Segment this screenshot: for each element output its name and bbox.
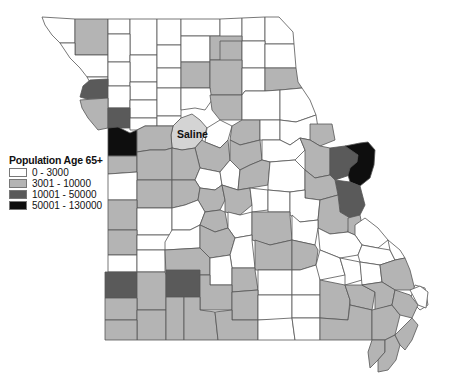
county bbox=[268, 160, 305, 192]
county bbox=[137, 272, 166, 310]
county bbox=[242, 17, 265, 41]
county bbox=[108, 156, 137, 174]
county bbox=[137, 250, 165, 272]
county bbox=[232, 290, 258, 320]
county bbox=[130, 55, 157, 82]
county bbox=[220, 41, 242, 62]
county bbox=[108, 200, 137, 230]
county bbox=[360, 262, 382, 285]
county bbox=[265, 68, 302, 91]
county bbox=[181, 19, 220, 36]
legend: Population Age 65+ 0 - 3000 3001 - 10000… bbox=[9, 154, 103, 211]
county bbox=[262, 138, 305, 162]
county bbox=[105, 272, 137, 298]
county bbox=[292, 295, 320, 318]
county bbox=[258, 270, 292, 295]
county bbox=[268, 190, 290, 212]
county bbox=[80, 79, 108, 99]
county bbox=[157, 45, 181, 68]
county bbox=[222, 185, 252, 215]
county bbox=[157, 88, 181, 116]
county bbox=[108, 86, 130, 108]
legend-swatch-2 bbox=[9, 190, 27, 199]
county bbox=[210, 95, 242, 120]
county bbox=[42, 17, 75, 43]
county bbox=[258, 318, 295, 340]
legend-label: 10001 - 50000 bbox=[32, 189, 97, 200]
county bbox=[242, 90, 280, 120]
county bbox=[265, 17, 294, 44]
county bbox=[232, 268, 258, 292]
county bbox=[260, 120, 280, 140]
county bbox=[137, 310, 166, 340]
county bbox=[265, 44, 296, 68]
county bbox=[105, 320, 137, 340]
county bbox=[250, 188, 268, 212]
county bbox=[108, 255, 137, 272]
county bbox=[108, 172, 137, 200]
county bbox=[210, 255, 232, 285]
county bbox=[108, 230, 137, 255]
county bbox=[172, 148, 200, 180]
county bbox=[137, 126, 173, 152]
legend-swatch-0 bbox=[9, 168, 27, 177]
legend-label: 50001 - 130000 bbox=[32, 200, 102, 211]
county bbox=[292, 318, 320, 340]
county bbox=[108, 108, 130, 128]
county bbox=[157, 19, 181, 45]
county bbox=[258, 295, 292, 320]
county bbox=[108, 127, 137, 156]
legend-item: 50001 - 130000 bbox=[9, 200, 103, 211]
county bbox=[130, 100, 157, 118]
legend-label: 3001 - 10000 bbox=[32, 178, 91, 189]
county bbox=[108, 34, 130, 62]
county bbox=[137, 180, 172, 208]
county bbox=[108, 19, 130, 34]
county bbox=[181, 62, 210, 88]
legend-title: Population Age 65+ bbox=[9, 154, 103, 166]
county bbox=[130, 82, 157, 100]
legend-swatch-1 bbox=[9, 179, 27, 188]
county bbox=[137, 208, 172, 235]
county bbox=[181, 36, 210, 62]
county bbox=[80, 98, 108, 130]
county bbox=[166, 297, 184, 340]
legend-label: 0 - 3000 bbox=[32, 167, 69, 178]
county bbox=[75, 19, 108, 55]
county bbox=[108, 62, 130, 86]
county bbox=[166, 270, 200, 297]
county bbox=[242, 41, 265, 68]
county bbox=[137, 148, 172, 180]
county bbox=[210, 60, 242, 95]
legend-item: 0 - 3000 bbox=[9, 167, 103, 178]
county-label-saline: Saline bbox=[177, 128, 208, 140]
county bbox=[105, 298, 137, 320]
legend-item: 10001 - 50000 bbox=[9, 189, 103, 200]
county bbox=[181, 88, 212, 110]
county bbox=[252, 212, 292, 245]
county bbox=[157, 68, 181, 88]
county bbox=[130, 19, 157, 55]
legend-item: 3001 - 10000 bbox=[9, 178, 103, 189]
county bbox=[255, 240, 292, 270]
legend-swatch-3 bbox=[9, 201, 27, 210]
